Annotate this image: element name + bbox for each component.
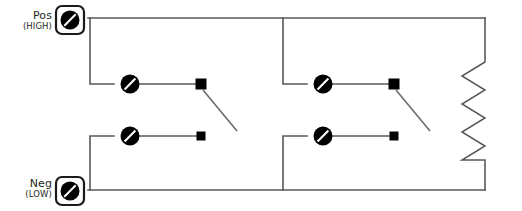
right-branch-upper-wire [283,18,307,84]
switch-4-terminal-square [390,132,399,141]
pos-terminal-label: Pos (HIGH) [6,10,52,32]
left-branch-lower-wire [90,136,114,190]
switch-1-group[interactable] [121,75,238,132]
switch-2-terminal-square [197,132,206,141]
switch-3-terminal-square [389,79,400,90]
switch-4-group[interactable] [314,127,399,146]
switch-1-terminal-square [196,79,207,90]
neg-label-sub: (LOW) [6,190,52,200]
schematic-svg [0,0,522,211]
left-branch-upper-wire [90,18,114,84]
pos-terminal-connector[interactable] [56,6,84,34]
resistor-zigzag-icon [462,57,485,165]
right-branch-lower-wire [283,136,307,190]
neg-terminal-connector[interactable] [56,177,84,205]
switch-2-group[interactable] [121,127,206,146]
pos-label-sub: (HIGH) [6,22,52,32]
switch-1-open-arm [203,90,237,131]
switch-3-open-arm [396,90,430,131]
circuit-diagram-canvas: Pos (HIGH) Neg (LOW) [0,0,522,211]
neg-terminal-label: Neg (LOW) [6,178,52,200]
switch-3-group[interactable] [314,75,431,132]
